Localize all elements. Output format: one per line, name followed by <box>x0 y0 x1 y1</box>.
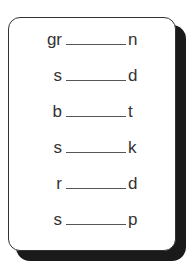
word-row: s d <box>0 64 190 88</box>
word-end: d <box>128 172 137 196</box>
blank-line[interactable] <box>66 152 126 153</box>
word-end: d <box>128 64 137 88</box>
word-start: gr <box>47 28 62 52</box>
word-start: s <box>54 208 63 232</box>
word-end: k <box>128 136 137 160</box>
word-end: p <box>128 208 137 232</box>
blank-line[interactable] <box>66 80 126 81</box>
word-row: b t <box>0 100 190 124</box>
blank-line[interactable] <box>66 44 126 45</box>
word-start: r <box>56 172 62 196</box>
word-start: b <box>53 100 62 124</box>
word-start: s <box>54 64 63 88</box>
word-end: t <box>128 100 133 124</box>
word-row: s k <box>0 136 190 160</box>
word-row: gr n <box>0 28 190 52</box>
word-row: r d <box>0 172 190 196</box>
word-row: s p <box>0 208 190 232</box>
blank-line[interactable] <box>66 116 126 117</box>
word-end: n <box>128 28 137 52</box>
blank-line[interactable] <box>66 188 126 189</box>
word-start: s <box>54 136 63 160</box>
blank-line[interactable] <box>66 224 126 225</box>
